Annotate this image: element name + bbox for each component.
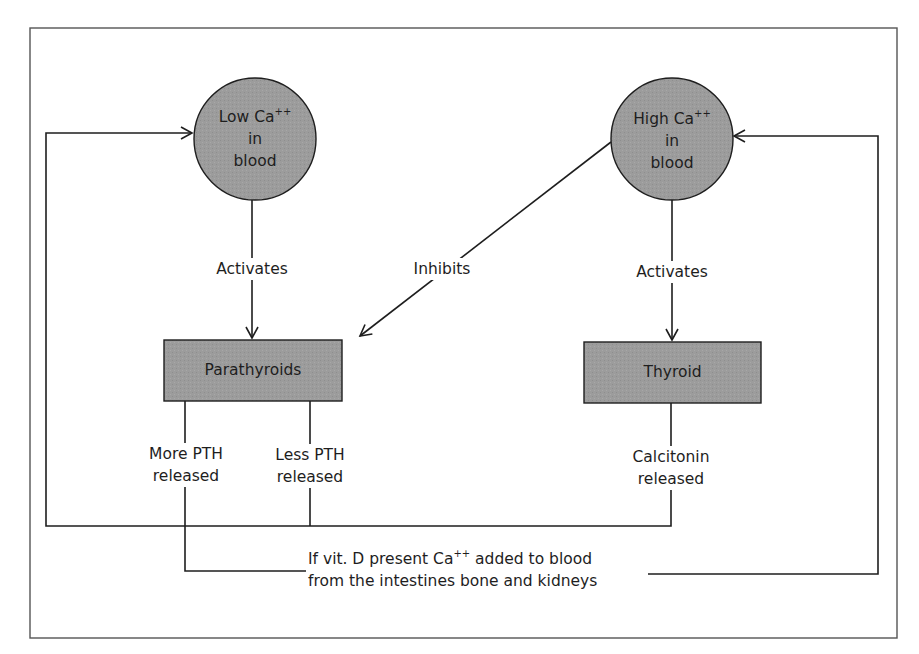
- parathyroids-label: Parathyroids: [164, 359, 342, 381]
- high-calcium-label: High Ca++ in blood: [612, 108, 732, 174]
- more-pth-label: More PTH released: [138, 443, 234, 487]
- low-calcium-line2: in: [195, 128, 315, 150]
- less-pth-line1: Less PTH: [264, 444, 356, 466]
- calcitonin-line2: released: [623, 468, 719, 490]
- high-calcium-line3: blood: [612, 152, 732, 174]
- vitamin-d-line1b: added to blood: [470, 550, 592, 568]
- vitamin-d-label: If vit. D present Ca++ added to blood fr…: [308, 548, 648, 592]
- vitamin-d-line2: from the intestines bone and kidneys: [308, 570, 648, 592]
- less-pth-line2: released: [264, 466, 356, 488]
- calcitonin-line1: Calcitonin: [623, 446, 719, 468]
- high-calcium-line2: in: [612, 130, 732, 152]
- vitamin-d-line1a: If vit. D present Ca: [308, 550, 453, 568]
- superscript: ++: [694, 108, 711, 119]
- diagram-frame: [30, 28, 897, 638]
- low-activates-label: Activates: [208, 258, 296, 280]
- superscript: ++: [453, 548, 470, 559]
- high-activates-label: Activates: [628, 261, 716, 283]
- low-calcium-line1: Low Ca: [219, 108, 275, 126]
- edge-high-inhibits-parathyroids: [360, 142, 611, 336]
- calcitonin-label: Calcitonin released: [623, 446, 719, 490]
- thyroid-label: Thyroid: [584, 361, 761, 383]
- low-calcium-line3: blood: [195, 150, 315, 172]
- less-pth-label: Less PTH released: [264, 444, 356, 488]
- inhibits-label: Inhibits: [406, 258, 478, 280]
- superscript: ++: [275, 106, 292, 117]
- more-pth-line1: More PTH: [138, 443, 234, 465]
- low-calcium-label: Low Ca++ in blood: [195, 106, 315, 172]
- high-calcium-line1: High Ca: [633, 110, 694, 128]
- more-pth-line2: released: [138, 465, 234, 487]
